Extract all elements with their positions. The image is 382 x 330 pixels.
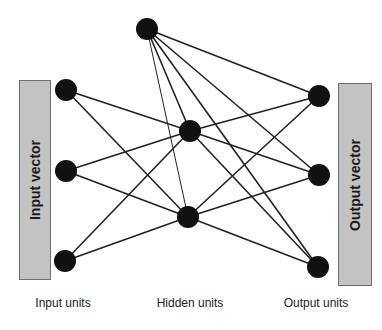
hidden-units-label: Hidden units [157,296,224,310]
input-vector-label: Input vector [27,140,43,220]
network-graph [0,0,382,330]
edge-I3-H2 [65,217,188,261]
edge-I1-H2 [66,90,188,217]
input-vector-box: Input vector [19,80,51,280]
edge-H1-O2 [190,131,319,175]
output-vector-label: Output vector [347,139,363,231]
hidden-node-H0 [136,18,158,40]
input-node-I3 [54,250,76,272]
output-node-O2 [308,164,330,186]
edge-H0-O1 [147,29,319,96]
hidden-node-H1 [179,120,201,142]
edge-H2-O2 [188,175,319,217]
edge-H2-O3 [188,217,318,267]
edge-H0-O2 [147,29,319,175]
output-units-label: Output units [284,296,349,310]
input-units-label: Input units [35,296,90,310]
input-node-I2 [55,160,77,182]
output-node-O1 [308,85,330,107]
hidden-node-H2 [177,206,199,228]
edge-I2-H2 [66,171,188,217]
output-vector-box: Output vector [338,83,372,286]
input-node-I1 [55,79,77,101]
output-node-O3 [307,256,329,278]
edge-H1-O3 [190,131,318,267]
neural-network-diagram: Input vector Output vector Input units H… [0,0,382,330]
